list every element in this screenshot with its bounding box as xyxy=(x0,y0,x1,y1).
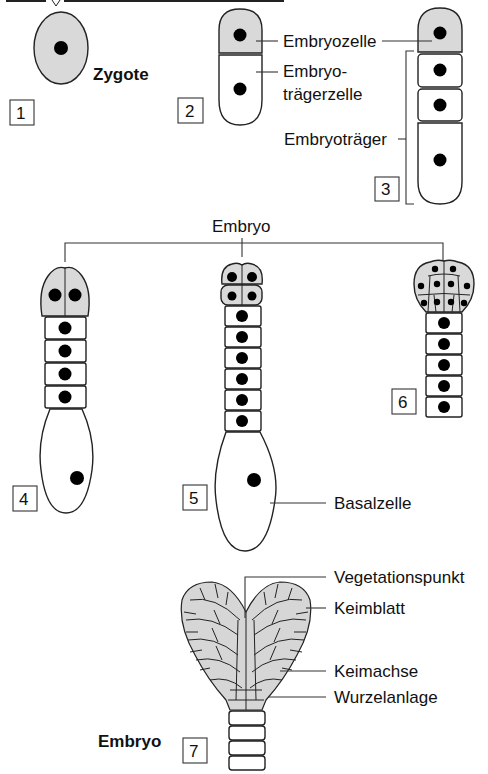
embryo-bracket-label: Embryo xyxy=(212,217,271,236)
nucleus xyxy=(59,391,72,404)
embryotraegerzelle-label-1: Embryo- xyxy=(283,62,347,81)
step-3-number: 3 xyxy=(381,180,390,199)
suspensor-remnant xyxy=(229,711,265,770)
nucleus xyxy=(69,289,82,302)
embryotraeger-label: Embryoträger xyxy=(284,130,387,149)
nucleus xyxy=(234,29,247,42)
nucleus xyxy=(59,345,72,358)
stage-5: Basalzelle 5 xyxy=(183,263,412,551)
nucleus xyxy=(434,64,447,77)
stage-4: 4 xyxy=(13,267,93,513)
embryo-final-label: Embryo xyxy=(98,732,161,751)
embryo-development-diagram: Zygote 1 2 Embryozelle Embryo- trägerzel… xyxy=(0,0,488,774)
stage-7-embryo: Vegetationspunkt Keimblatt Keimachse Wur… xyxy=(98,568,465,770)
keimachse-label: Keimachse xyxy=(334,662,418,681)
nucleus xyxy=(434,27,447,40)
nucleus xyxy=(434,99,447,112)
suspensor-cells xyxy=(426,313,462,417)
step-7-number: 7 xyxy=(189,742,198,761)
embryo-bracket: Embryo xyxy=(65,217,443,262)
nucleus xyxy=(234,83,247,96)
wurzelanlage-label: Wurzelanlage xyxy=(334,688,438,707)
step-5-number: 5 xyxy=(189,489,198,508)
suspensor-cells xyxy=(225,306,261,431)
step-6-number: 6 xyxy=(398,393,407,412)
zygote-nucleus xyxy=(54,41,68,55)
nucleus xyxy=(59,368,72,381)
nucleus xyxy=(49,289,62,302)
step-4-number: 4 xyxy=(19,490,28,509)
embryotraegerzelle-label-2: trägerzelle xyxy=(283,85,362,104)
nucleus xyxy=(247,473,261,487)
stage-2-two-cell: 2 Embryozelle Embryo- trägerzelle xyxy=(178,9,377,125)
basal-cell xyxy=(215,432,276,551)
keimblatt-label: Keimblatt xyxy=(334,599,405,618)
vegetationspunkt-label: Vegetationspunkt xyxy=(334,568,465,587)
nucleus xyxy=(70,471,84,485)
step-1-number: 1 xyxy=(16,104,25,123)
nucleus xyxy=(434,154,447,167)
step-2-number: 2 xyxy=(185,102,194,121)
zygote-label: Zygote xyxy=(93,65,149,84)
nucleus xyxy=(59,322,72,335)
stage-1-zygote: Zygote 1 xyxy=(10,12,149,125)
cropped-title xyxy=(6,0,284,6)
basalzelle-label: Basalzelle xyxy=(334,494,412,513)
embryozelle-label: Embryozelle xyxy=(283,32,377,51)
stage-6: 6 xyxy=(392,260,474,417)
basal-cell xyxy=(40,409,93,513)
